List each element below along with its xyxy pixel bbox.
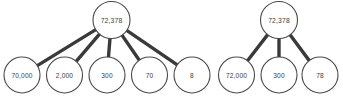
left-leaf-node-3[interactable]: 70 (132, 57, 168, 93)
left-leaf-node-1[interactable]: 2,000 (47, 57, 83, 93)
left-leaf-node-2[interactable]: 300 (89, 57, 125, 93)
right-leaf-node-0-label: 72,000 (226, 72, 247, 79)
right-root-node[interactable]: 72,378 (261, 2, 298, 39)
left-leaf-node-group: 70,0002,000300708 (4, 57, 210, 93)
right-leaf-node-1-label: 300 (273, 72, 285, 79)
right-leaf-node-2[interactable]: 78 (302, 57, 338, 93)
diagram-canvas: 70,0002,000300708 72,378 72,00030078 72,… (0, 0, 343, 102)
right-leaf-node-0[interactable]: 72,000 (219, 57, 255, 93)
right-root-node[interactable]: 72,378 (261, 2, 298, 39)
connector-edge-right-2 (289, 34, 309, 61)
number-decomposition-diagram: 70,0002,000300708 72,378 72,00030078 72,… (0, 0, 343, 102)
left-leaf-node-0[interactable]: 70,000 (4, 57, 40, 93)
left-leaf-node-1-label: 2,000 (56, 72, 73, 79)
left-leaf-node-4-label: 8 (190, 72, 194, 79)
left-leaf-node-3-label: 70 (146, 72, 154, 79)
right-leaf-node-1[interactable]: 300 (261, 57, 297, 93)
right-root-node-label: 72,378 (268, 17, 290, 24)
connector-edge-right-0 (247, 34, 268, 62)
left-decomposition-tree: 70,0002,000300708 72,378 (4, 2, 210, 94)
connector-edge-left-2 (108, 37, 110, 58)
left-leaf-node-4[interactable]: 8 (174, 57, 210, 93)
left-root-node[interactable]: 72,378 (93, 2, 130, 39)
left-leaf-node-2-label: 300 (101, 72, 113, 79)
right-leaf-node-group: 72,00030078 (219, 57, 339, 93)
left-root-node-label: 72,378 (101, 17, 123, 24)
right-leaf-node-2-label: 78 (316, 72, 324, 79)
left-root-node[interactable]: 72,378 (93, 2, 130, 39)
right-decomposition-tree: 72,00030078 72,378 (219, 2, 339, 94)
connector-edge-left-1 (76, 33, 101, 62)
left-leaf-node-0-label: 70,000 (11, 72, 32, 79)
